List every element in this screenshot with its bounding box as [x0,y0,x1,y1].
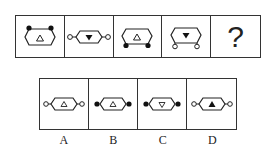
hexagon-bottom-white-dots-icon [166,22,206,52]
option-c-label[interactable]: C [138,133,188,148]
sequence-figure-4 [162,16,211,57]
hexagon-side-white-dots-icon [66,22,112,52]
option-b-figure[interactable] [89,79,138,129]
hexagon-bottom-black-dots-icon [117,22,157,52]
hexagon-top-black-dots-icon [20,22,60,52]
question-sequence: ? [15,15,261,58]
option-a-figure[interactable] [40,79,89,129]
option-d-figure[interactable] [187,79,236,129]
option-a-label[interactable]: A [39,133,89,148]
hexagon-white-dots-white-up-triangle-icon [42,92,86,116]
option-b-label[interactable]: B [89,133,139,148]
hexagon-white-dots-black-up-triangle-icon [190,92,234,116]
hexagon-black-dots-white-down-triangle-icon [140,92,184,116]
sequence-figure-2 [65,16,114,57]
sequence-figure-1 [16,16,65,57]
option-labels: A B C D [39,133,237,148]
answer-options [39,78,237,130]
sequence-figure-3 [114,16,163,57]
option-d-label[interactable]: D [188,133,238,148]
option-c-figure[interactable] [138,79,187,129]
question-mark: ? [227,22,244,52]
missing-figure: ? [211,16,260,57]
hexagon-black-dots-white-up-triangle-icon [91,92,135,116]
